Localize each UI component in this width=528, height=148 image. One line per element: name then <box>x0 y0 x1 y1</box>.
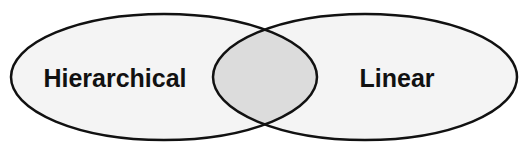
venn-diagram: Hierarchical Linear <box>0 0 528 148</box>
set-left-label: Hierarchical <box>43 64 186 92</box>
set-right-label: Linear <box>359 64 434 92</box>
